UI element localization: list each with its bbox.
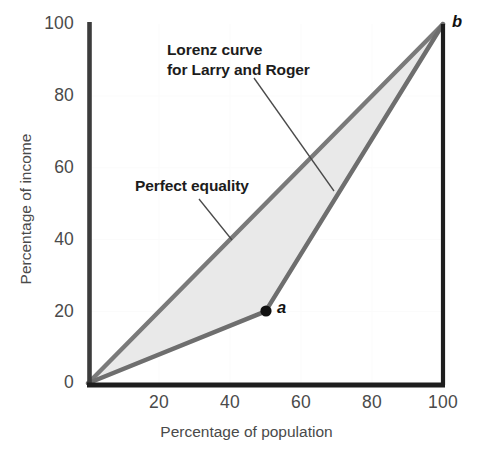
data-point-a-marker [260, 305, 271, 316]
y-axis-title: Percentage of income [17, 99, 35, 319]
y-tick-label-0: 0 [12, 372, 74, 393]
data-point-label-b: b [452, 12, 462, 31]
lorenz-curve-figure: 100 80 60 40 20 0 20 40 60 80 100 Percen… [0, 0, 493, 454]
annotation-perfect-equality: Perfect equality [135, 176, 249, 196]
y-tick-label-100: 100 [12, 13, 74, 34]
annotation-lorenz-curve: Lorenz curve for Larry and Roger [167, 40, 310, 81]
leader-line-equality [199, 199, 232, 240]
x-tick-label-20: 20 [129, 392, 189, 413]
x-tick-label-40: 40 [200, 392, 260, 413]
x-tick-label-100: 100 [413, 392, 473, 413]
data-point-label-a: a [277, 298, 286, 317]
x-tick-label-80: 80 [342, 392, 402, 413]
x-tick-label-60: 60 [271, 392, 331, 413]
x-axis-title: Percentage of population [0, 423, 493, 441]
